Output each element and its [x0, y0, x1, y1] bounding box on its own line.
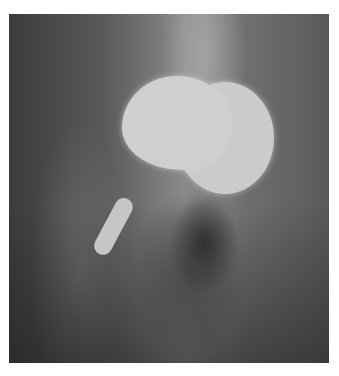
xray-image — [9, 14, 329, 363]
dark-region — [169, 194, 239, 294]
implant-head — [122, 76, 230, 170]
